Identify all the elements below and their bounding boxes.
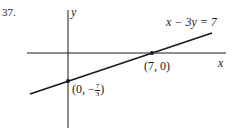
point-y-intercept — [66, 79, 70, 83]
point2-suffix: ) — [100, 82, 104, 96]
point-label-y-intercept: (0, −73) — [72, 82, 104, 98]
point-label-x-intercept: (7, 0) — [144, 59, 170, 74]
point2-prefix: (0, − — [72, 82, 95, 96]
graph-line — [30, 33, 212, 94]
point-x-intercept — [150, 51, 154, 55]
x-axis-label: x — [218, 56, 223, 71]
y-axis-label: y — [71, 5, 76, 20]
equation-label: x − 3y = 7 — [166, 15, 217, 30]
